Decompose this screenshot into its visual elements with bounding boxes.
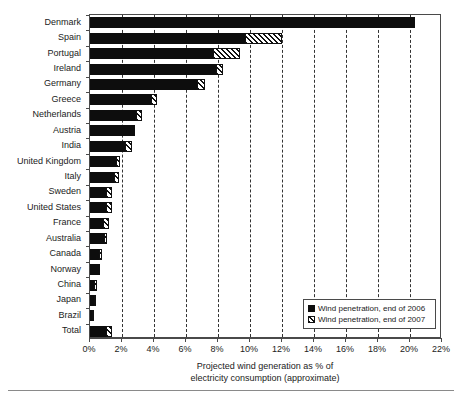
bar-segment-2006 bbox=[90, 326, 106, 337]
category-label: Australia bbox=[46, 233, 81, 243]
category-label: Brazil bbox=[58, 310, 81, 320]
x-axis-tick-label: 16% bbox=[336, 344, 354, 355]
bar-segment-2006 bbox=[90, 64, 216, 75]
x-axis-tick bbox=[345, 338, 346, 342]
bar-segment-2007 bbox=[136, 110, 142, 121]
category-label: United Kingdom bbox=[17, 156, 81, 166]
x-axis-title-line-2: electricity consumption (approximate) bbox=[89, 372, 441, 384]
x-axis-tick-label: 22% bbox=[432, 344, 450, 355]
wind-penetration-bar-chart: DenmarkSpainPortugalIrelandGermanyGreece… bbox=[0, 0, 462, 399]
category-label: Denmark bbox=[44, 17, 81, 27]
x-axis-tick bbox=[89, 338, 90, 342]
bar-segment-2007 bbox=[94, 280, 97, 291]
page-divider-rule bbox=[8, 390, 454, 391]
x-axis-title: Projected wind generation as % of electr… bbox=[89, 360, 441, 384]
bar-segment-2006 bbox=[90, 172, 114, 183]
legend-swatch-hatched-icon bbox=[308, 316, 315, 323]
bar-segment-2006 bbox=[90, 33, 245, 44]
category-label: Germany bbox=[44, 78, 81, 88]
bar-segment-2006 bbox=[90, 141, 125, 152]
bar-segment-2006 bbox=[90, 125, 135, 136]
legend-swatch-solid-icon bbox=[308, 305, 315, 312]
bar-segment-2006 bbox=[90, 202, 106, 213]
x-axis-tick bbox=[281, 338, 282, 342]
category-label: Netherlands bbox=[32, 109, 81, 119]
x-axis-tick-label: 8% bbox=[210, 344, 223, 355]
bar-segment-2007 bbox=[106, 202, 112, 213]
bar-segment-2006 bbox=[90, 233, 104, 244]
bar-segment-2007 bbox=[104, 233, 106, 244]
x-axis-tick-label: 2% bbox=[114, 344, 127, 355]
chart-legend: Wind penetration, end of 2006 Wind penet… bbox=[303, 299, 436, 329]
x-axis-tick-label: 4% bbox=[146, 344, 159, 355]
x-axis-tick bbox=[313, 338, 314, 342]
legend-label-2007: Wind penetration, end of 2007 bbox=[318, 314, 425, 325]
category-label: Portugal bbox=[47, 48, 81, 58]
legend-item-2007: Wind penetration, end of 2007 bbox=[308, 314, 431, 325]
x-axis-tick-label: 18% bbox=[368, 344, 386, 355]
bar-segment-2007 bbox=[216, 64, 222, 75]
x-axis-tick bbox=[377, 338, 378, 342]
bar-segment-2006 bbox=[90, 264, 100, 275]
x-axis-tick-label: 6% bbox=[178, 344, 191, 355]
bar-segment-2007 bbox=[92, 310, 94, 321]
bar-segment-2006 bbox=[90, 249, 99, 260]
bar-segment-2006 bbox=[90, 94, 151, 105]
category-label: Spain bbox=[58, 32, 81, 42]
category-label: United States bbox=[27, 202, 81, 212]
bar-segment-2006 bbox=[90, 79, 197, 90]
legend-item-2006: Wind penetration, end of 2006 bbox=[308, 303, 431, 314]
x-axis-title-line-1: Projected wind generation as % of bbox=[89, 360, 441, 372]
category-label: Ireland bbox=[53, 63, 81, 73]
x-axis-tick-label: 10% bbox=[240, 344, 258, 355]
bar-segment-2007 bbox=[151, 94, 157, 105]
bar-segment-2007 bbox=[116, 156, 121, 167]
bar-segment-2007 bbox=[125, 141, 131, 152]
bar-segment-2007 bbox=[213, 48, 240, 59]
x-axis-tick bbox=[217, 338, 218, 342]
x-axis-tick-label: 20% bbox=[400, 344, 418, 355]
bar-segment-2007 bbox=[99, 249, 102, 260]
x-axis-tick-label: 14% bbox=[304, 344, 322, 355]
x-axis-tick bbox=[153, 338, 154, 342]
bar-segment-2007 bbox=[245, 33, 282, 44]
category-label: Greece bbox=[51, 94, 81, 104]
x-axis-tick bbox=[185, 338, 186, 342]
bar-segment-2007 bbox=[106, 187, 112, 198]
bar-segment-2006 bbox=[90, 156, 116, 167]
legend-label-2006: Wind penetration, end of 2006 bbox=[318, 303, 425, 314]
x-axis-tick bbox=[441, 338, 442, 342]
x-axis-tick bbox=[121, 338, 122, 342]
category-label: Japan bbox=[56, 294, 81, 304]
bar-segment-2007 bbox=[197, 79, 205, 90]
bar-segment-2006 bbox=[90, 110, 136, 121]
bars-layer bbox=[90, 15, 440, 337]
x-axis-tick bbox=[249, 338, 250, 342]
category-label: Norway bbox=[50, 264, 81, 274]
category-label: India bbox=[61, 140, 81, 150]
category-label: Canada bbox=[49, 248, 81, 258]
category-axis-labels: DenmarkSpainPortugalIrelandGermanyGreece… bbox=[0, 14, 85, 338]
bar-segment-2007 bbox=[103, 218, 109, 229]
plot-area bbox=[89, 14, 441, 338]
category-label: China bbox=[57, 279, 81, 289]
x-axis-line bbox=[89, 338, 441, 339]
bar-segment-2007 bbox=[114, 172, 119, 183]
category-label: Italy bbox=[64, 171, 81, 181]
bar-segment-2006 bbox=[90, 187, 106, 198]
category-label: Sweden bbox=[48, 186, 81, 196]
category-label: Austria bbox=[53, 125, 81, 135]
bar-segment-2007 bbox=[106, 326, 112, 337]
category-label: Total bbox=[62, 325, 81, 335]
x-axis-tick-label: 12% bbox=[272, 344, 290, 355]
bar-segment-2006 bbox=[90, 48, 213, 59]
x-axis-tick bbox=[409, 338, 410, 342]
bar-segment-2006 bbox=[90, 17, 415, 28]
x-axis-tick-label: 0% bbox=[82, 344, 95, 355]
bar-segment-2006 bbox=[90, 218, 103, 229]
category-label: France bbox=[53, 217, 81, 227]
bar-segment-2007 bbox=[94, 295, 96, 306]
